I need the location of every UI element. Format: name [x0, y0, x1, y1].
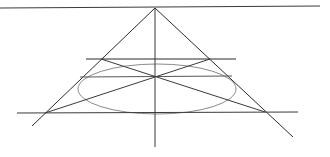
- background: [0, 0, 330, 157]
- diagram-svg: [0, 0, 330, 157]
- perspective-diagram: [0, 0, 330, 157]
